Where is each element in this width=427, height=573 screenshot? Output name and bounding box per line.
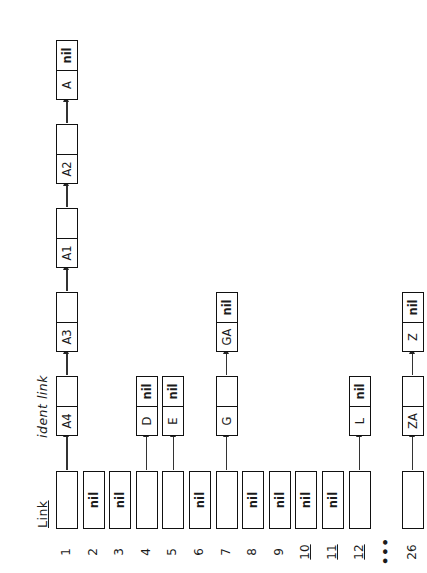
bucket-number-4: 4	[139, 539, 153, 565]
hash-table-diagram: 1A4A3A1A2Anil2nil3nil4Dnil5Enil6nil7GGAn…	[0, 0, 427, 573]
bucket-cell-10[interactable]: nil	[295, 471, 317, 529]
bucket-number-26: 26	[405, 539, 419, 565]
node-link-26-1	[403, 377, 423, 406]
list-node-7-2[interactable]: GAnil	[216, 292, 238, 352]
list-node-1-4[interactable]: A2	[56, 124, 78, 184]
node-link-1-5: nil	[57, 41, 77, 70]
bucket-cell-4[interactable]	[136, 471, 158, 529]
bucket-cell-8[interactable]: nil	[242, 471, 264, 529]
node-ident-4-1: D	[137, 406, 157, 435]
bucket-12-connector	[359, 436, 360, 470]
node-link-7-2: nil	[217, 293, 237, 322]
node-ident-5-1: E	[163, 406, 183, 435]
bucket-7-connector	[226, 436, 227, 470]
bucket-nil-8: nil	[243, 472, 263, 528]
bucket-nil-10: nil	[296, 472, 316, 528]
bucket-number-1: 1	[59, 539, 73, 565]
node-ident-12-1: L	[350, 406, 370, 435]
bucket-number-8: 8	[245, 539, 259, 565]
node-connector-1-4	[66, 101, 67, 123]
bucket-nil-11: nil	[323, 472, 343, 528]
node-ident-1-4: A2	[57, 154, 77, 183]
node-link-26-2: nil	[403, 293, 423, 322]
node-ident-1-5: A	[57, 70, 77, 99]
bucket-cell-2[interactable]: nil	[83, 471, 105, 529]
list-node-4-1[interactable]: Dnil	[136, 376, 158, 436]
bucket-number-2: 2	[86, 539, 100, 565]
bucket-number-11: 11	[325, 539, 339, 565]
node-ident-7-2: GA	[217, 322, 237, 351]
bucket-26-connector	[412, 436, 413, 470]
node-connector-1-1	[66, 353, 67, 375]
node-connector-26-1	[412, 353, 413, 375]
bucket-number-12: 12	[352, 539, 366, 565]
node-link-1-1	[57, 377, 77, 406]
node-link-1-4	[57, 125, 77, 154]
bucket-cell-7[interactable]	[216, 471, 238, 529]
node-ident-1-1: A4	[57, 406, 77, 435]
figure-canvas: 1A4A3A1A2Anil2nil3nil4Dnil5Enil6nil7GGAn…	[0, 0, 427, 573]
bucket-1-connector	[66, 436, 67, 470]
bucket-nil-6: nil	[190, 472, 210, 528]
node-connector-1-3	[66, 185, 67, 207]
node-link-5-1: nil	[163, 377, 183, 406]
bucket-cell-9[interactable]: nil	[269, 471, 291, 529]
node-link-4-1: nil	[137, 377, 157, 406]
bucket-4-connector	[146, 436, 147, 470]
node-link-1-3	[57, 209, 77, 238]
column-header-link: Link	[35, 500, 50, 528]
bucket-number-6: 6	[192, 539, 206, 565]
bucket-nil-3: nil	[110, 472, 130, 528]
bucket-5-connector	[173, 436, 174, 470]
node-connector-7-1	[226, 353, 227, 375]
list-node-1-5[interactable]: Anil	[56, 40, 78, 100]
bucket-number-10: 10	[298, 539, 312, 565]
node-ident-1-2: A3	[57, 322, 77, 351]
list-node-5-1[interactable]: Enil	[162, 376, 184, 436]
bucket-ellipsis: •••	[378, 539, 393, 565]
node-connector-1-2	[66, 269, 67, 291]
node-link-7-1	[217, 377, 237, 406]
bucket-cell-11[interactable]: nil	[322, 471, 344, 529]
bucket-number-7: 7	[219, 539, 233, 565]
bucket-number-5: 5	[165, 539, 179, 565]
bucket-number-3: 3	[112, 539, 126, 565]
bucket-nil-9: nil	[270, 472, 290, 528]
node-header-ident-link: ident link	[35, 375, 50, 438]
bucket-cell-26[interactable]	[402, 471, 424, 529]
bucket-cell-12[interactable]	[349, 471, 371, 529]
node-ident-1-3: A1	[57, 238, 77, 267]
list-node-26-2[interactable]: Znil	[402, 292, 424, 352]
node-ident-26-1: ZA	[403, 406, 423, 435]
bucket-cell-6[interactable]: nil	[189, 471, 211, 529]
list-node-12-1[interactable]: Lnil	[349, 376, 371, 436]
node-ident-7-1: G	[217, 406, 237, 435]
node-link-1-2	[57, 293, 77, 322]
list-node-1-1[interactable]: A4	[56, 376, 78, 436]
list-node-1-2[interactable]: A3	[56, 292, 78, 352]
bucket-cell-3[interactable]: nil	[109, 471, 131, 529]
bucket-nil-2: nil	[84, 472, 104, 528]
bucket-number-9: 9	[272, 539, 286, 565]
bucket-cell-5[interactable]	[162, 471, 184, 529]
list-node-26-1[interactable]: ZA	[402, 376, 424, 436]
node-ident-26-2: Z	[403, 322, 423, 351]
node-link-12-1: nil	[350, 377, 370, 406]
list-node-7-1[interactable]: G	[216, 376, 238, 436]
list-node-1-3[interactable]: A1	[56, 208, 78, 268]
bucket-cell-1[interactable]	[56, 471, 78, 529]
